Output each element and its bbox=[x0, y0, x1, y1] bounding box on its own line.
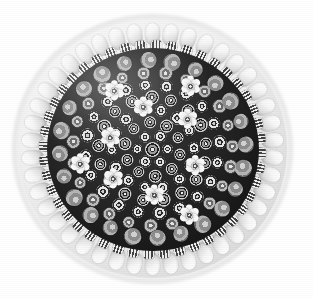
flower-core bbox=[186, 211, 193, 218]
flower-core bbox=[77, 160, 84, 167]
flower-core bbox=[110, 175, 117, 182]
millefiori-cane bbox=[154, 104, 168, 118]
glass-dome bbox=[18, 20, 287, 278]
millefiori-cane bbox=[233, 157, 255, 179]
millefiori-cane bbox=[100, 218, 120, 238]
millefiori-cane bbox=[131, 142, 144, 155]
millefiori-ground bbox=[47, 48, 259, 251]
millefiori-cane bbox=[81, 96, 96, 111]
millefiori-cane bbox=[164, 94, 177, 107]
millefiori-cane bbox=[65, 188, 83, 206]
millefiori-cane bbox=[122, 226, 143, 247]
flower-core bbox=[151, 191, 158, 198]
millefiori-cane bbox=[85, 192, 100, 207]
millefiori-cane bbox=[191, 191, 203, 203]
millefiori-cane bbox=[116, 56, 133, 73]
millefiori-cane bbox=[173, 226, 188, 241]
millefiori-cane bbox=[235, 135, 255, 155]
millefiori-cane bbox=[162, 144, 172, 154]
millefiori-cane bbox=[225, 179, 246, 200]
millefiori-cane bbox=[173, 183, 191, 201]
millefiori-cane bbox=[213, 200, 230, 217]
millefiori-cane bbox=[74, 80, 93, 99]
millefiori-cane bbox=[222, 92, 239, 109]
paperweight-photo: Close-packed concentric millefiori paper… bbox=[0, 0, 313, 298]
flower-core bbox=[187, 82, 194, 89]
millefiori-cane bbox=[195, 99, 210, 114]
center-cane bbox=[145, 142, 160, 157]
millefiori-cane bbox=[230, 111, 251, 132]
millefiori-cane bbox=[143, 115, 157, 129]
millefiori-cane bbox=[50, 144, 69, 163]
millefiori-cane bbox=[205, 114, 223, 132]
millefiori-cane bbox=[174, 149, 185, 160]
flower-core bbox=[184, 115, 191, 122]
flower-core bbox=[192, 162, 199, 169]
millefiori-cane bbox=[199, 136, 214, 151]
millefiori-cane bbox=[212, 135, 226, 149]
flower-core bbox=[107, 134, 114, 141]
flower-core bbox=[140, 103, 147, 110]
millefiori-cane bbox=[118, 136, 132, 150]
millefiori-cane bbox=[79, 204, 101, 226]
flower-core bbox=[111, 87, 118, 94]
millefiori-cane bbox=[70, 113, 86, 129]
